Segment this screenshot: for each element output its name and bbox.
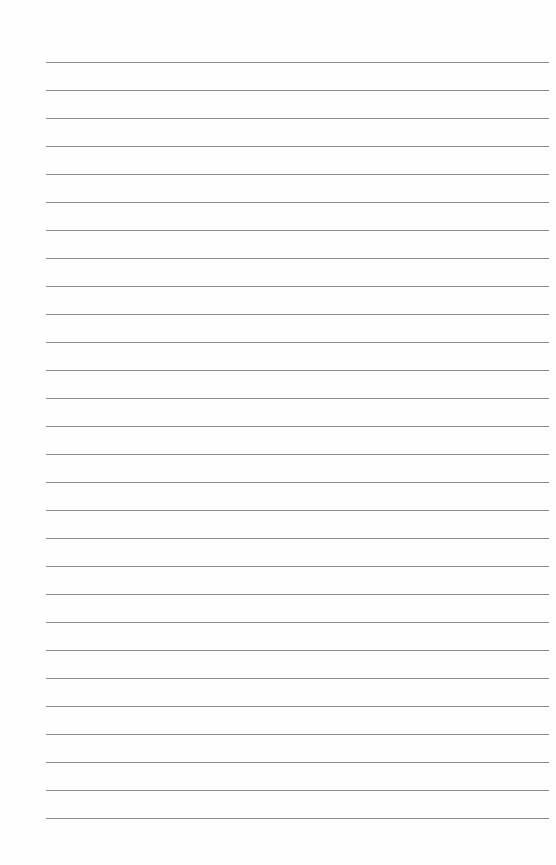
ruled-line [46, 286, 549, 287]
ruled-line [46, 706, 549, 707]
ruled-line [46, 566, 549, 567]
ruled-line [46, 454, 549, 455]
ruled-line [46, 762, 549, 763]
ruled-line [46, 62, 549, 63]
ruled-line [46, 594, 549, 595]
ruled-line [46, 538, 549, 539]
ruled-line [46, 202, 549, 203]
ruled-line [46, 650, 549, 651]
lined-paper-page [0, 0, 556, 865]
ruled-line [46, 230, 549, 231]
ruled-line [46, 482, 549, 483]
ruled-line [46, 818, 549, 819]
ruled-line [46, 90, 549, 91]
ruled-line [46, 398, 549, 399]
ruled-line [46, 370, 549, 371]
ruled-line [46, 314, 549, 315]
ruled-line [46, 342, 549, 343]
ruled-line [46, 118, 549, 119]
ruled-line [46, 146, 549, 147]
ruled-line [46, 790, 549, 791]
ruled-line [46, 734, 549, 735]
ruled-line [46, 510, 549, 511]
ruled-line [46, 258, 549, 259]
ruled-line [46, 678, 549, 679]
ruled-line [46, 426, 549, 427]
ruled-line [46, 622, 549, 623]
ruled-line [46, 174, 549, 175]
